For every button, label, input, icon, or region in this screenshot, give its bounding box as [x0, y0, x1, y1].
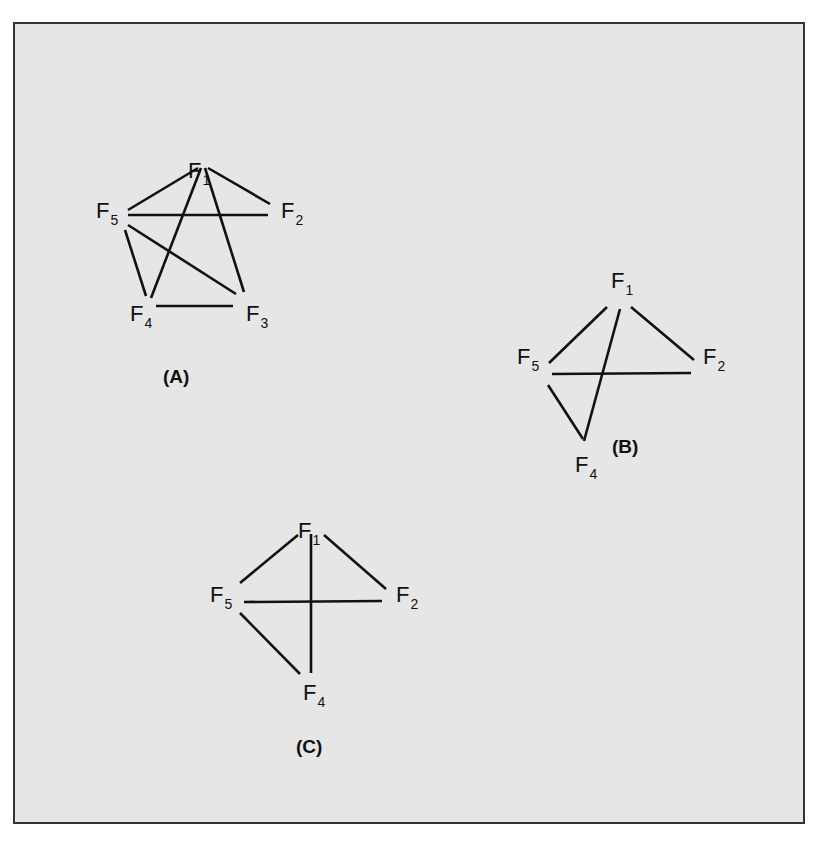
edge-f1-f2	[631, 307, 694, 360]
panel-label-a: (A)	[163, 366, 189, 387]
node-f4: F4	[130, 301, 152, 331]
edge-f1-f5	[240, 535, 298, 583]
panel-b: F1F2F4F5(B)	[517, 268, 725, 482]
edge-f1-f2	[208, 168, 270, 204]
graph-diagram: F1F2F3F4F5(A) F1F2F4F5(B) F1F2F4F5(C)	[0, 0, 815, 848]
node-f4: F4	[303, 680, 325, 710]
node-f2: F2	[703, 344, 725, 374]
panel-label-b: (B)	[612, 436, 638, 457]
node-f5: F5	[96, 198, 118, 228]
node-f5: F5	[210, 582, 232, 612]
node-f2: F2	[396, 582, 418, 612]
edge-f5-f2	[244, 601, 382, 602]
panel-a: F1F2F3F4F5(A)	[96, 158, 303, 387]
edge-f5-f4	[240, 613, 300, 674]
edge-f5-f2	[552, 373, 691, 374]
node-f3: F3	[246, 301, 268, 331]
edge-f1-f5	[549, 307, 607, 363]
edge-f5-f4	[125, 230, 146, 296]
edge-f5-f3	[128, 225, 236, 294]
panel-label-c: (C)	[296, 736, 322, 757]
edge-f1-f2	[324, 535, 386, 589]
node-f1: F1	[611, 268, 633, 298]
node-f2: F2	[281, 198, 303, 228]
panel-c: F1F2F4F5(C)	[210, 518, 418, 757]
edge-f5-f4	[548, 385, 583, 439]
node-f1: F1	[188, 158, 210, 188]
node-f5: F5	[517, 344, 539, 374]
edge-f1-f4	[151, 168, 201, 298]
node-f1: F1	[298, 518, 320, 548]
node-f4: F4	[575, 452, 597, 482]
